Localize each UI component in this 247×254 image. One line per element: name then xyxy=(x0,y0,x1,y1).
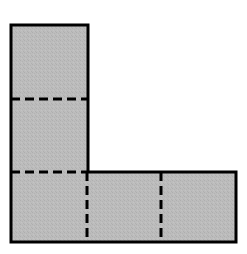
l-shape-fill xyxy=(11,25,236,242)
figure-canvas xyxy=(0,0,247,254)
l-shape-figure xyxy=(0,0,247,254)
